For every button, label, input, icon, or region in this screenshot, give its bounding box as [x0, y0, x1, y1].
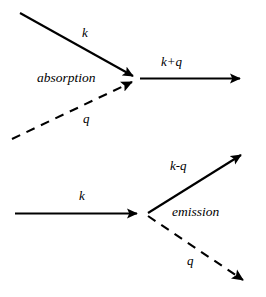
label-emission: emission: [172, 205, 219, 219]
label-absorption: absorption: [37, 71, 96, 85]
feynman-diagram-canvas: k k+q absorption q k-q k emission q: [0, 0, 266, 297]
feynman-diagram-svg: [0, 0, 266, 297]
label-top-q: q: [83, 112, 90, 125]
line-incoming-photon-q-top: [12, 82, 132, 139]
label-bottom-q: q: [187, 254, 194, 267]
label-top-k: k: [82, 26, 88, 39]
label-top-kplusq: k+q: [161, 55, 182, 68]
line-outgoing-photon-q-bottom: [148, 216, 243, 280]
label-bottom-kminusq: k-q: [170, 159, 187, 172]
line-incoming-electron-k-top: [20, 13, 133, 76]
label-bottom-k: k: [79, 189, 85, 202]
